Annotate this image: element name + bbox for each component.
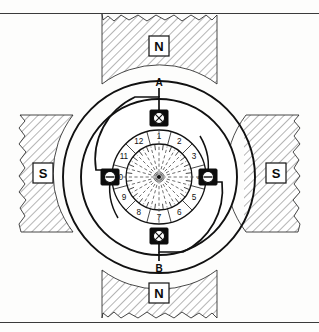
commutator-segment-label: 5: [192, 193, 197, 202]
pole-label-left: S: [33, 163, 53, 183]
machine-cross-section-figure: A B 123456789101112: [0, 0, 319, 332]
commutator-segment-label: 6: [177, 208, 182, 217]
brush-bottom[interactable]: [150, 228, 168, 244]
shaft-center: [157, 175, 161, 179]
commutator-segment-label: 2: [177, 137, 182, 146]
terminal-a-label: A: [155, 77, 162, 88]
diagram-canvas: A B 123456789101112: [0, 0, 319, 332]
pole-label-top: N: [149, 36, 169, 56]
pole-label-right-letter: S: [272, 166, 281, 181]
commutator-segment-label: 12: [134, 137, 144, 146]
brush-right[interactable]: [199, 169, 217, 185]
commutator-segment-label: 8: [136, 208, 141, 217]
brush-left[interactable]: [101, 169, 119, 185]
terminal-b-label: B: [155, 263, 162, 274]
pole-label-bottom-letter: N: [154, 286, 163, 301]
pole-label-bottom: N: [149, 283, 169, 303]
pole-label-left-letter: S: [39, 166, 48, 181]
pole-label-right: S: [266, 163, 286, 183]
commutator-segment-label: 11: [120, 152, 129, 161]
commutator-segment-label: 9: [122, 193, 127, 202]
pole-label-top-letter: N: [154, 39, 163, 54]
brush-top[interactable]: [150, 110, 168, 126]
commutator-segment-label: 3: [192, 152, 197, 161]
